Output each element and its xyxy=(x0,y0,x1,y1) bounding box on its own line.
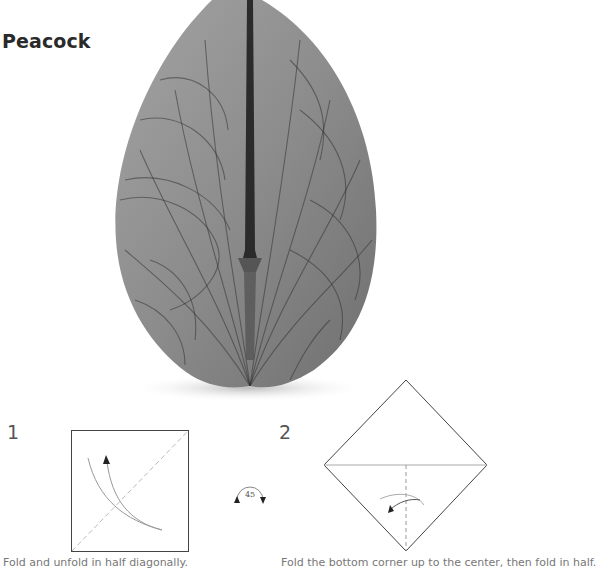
step-2-diagram xyxy=(324,380,487,551)
rotate-right-arrow-icon xyxy=(260,497,266,504)
rotate-left-arrow-icon xyxy=(234,496,240,503)
rotate-45-label: 45 xyxy=(245,490,255,499)
step-1-caption: Fold and unfold in half diagonally. xyxy=(3,556,188,569)
step-2-caption: Fold the bottom corner up to the center,… xyxy=(281,556,596,569)
step-1-diagram xyxy=(72,431,189,552)
